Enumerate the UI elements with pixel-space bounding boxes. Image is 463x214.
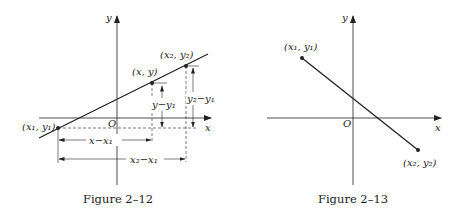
point-label-p: (x, y) (132, 66, 158, 77)
y-axis-label: y (341, 12, 348, 23)
origin-label: O (343, 118, 351, 129)
point-label-p1: (x₁, y₁) (22, 121, 56, 132)
figure-caption: Figure 2–13 (318, 192, 388, 206)
dim-label-x-minus-x1: x−x₁ (89, 135, 113, 146)
point-label-p2: (x₂, y₂) (403, 157, 437, 168)
point-label-p1: (x₁, y₁) (284, 41, 318, 52)
dim-label-y-minus-y1: y−y₁ (151, 99, 176, 110)
figure-2-13: x y O (x₁, y₁) (x₂, y₂) Figure 2–13 (267, 12, 441, 206)
dim-label-y2-minus-y1: y₂−y₁ (186, 93, 215, 104)
diagram-canvas: x y O y−y₁ y₂−y₁ x−x₁ x₂−x₁ (x₁, y₁) (0, 0, 463, 214)
x-axis-label: x (435, 122, 441, 133)
point-p1 (56, 126, 60, 130)
figure-caption: Figure 2–12 (83, 192, 153, 206)
point-p (150, 81, 154, 85)
point-label-p2: (x₂, y₂) (160, 49, 194, 60)
point-p1 (300, 56, 304, 60)
x-axis-label: x (205, 122, 211, 133)
line-through-points (39, 54, 208, 138)
origin-label: O (108, 118, 116, 129)
point-p2 (184, 64, 188, 68)
y-axis-label: y (105, 12, 112, 23)
figure-2-12: x y O y−y₁ y₂−y₁ x−x₁ x₂−x₁ (x₁, y₁) (22, 12, 216, 206)
segment-p1-p2 (302, 58, 418, 150)
point-p2 (416, 148, 420, 152)
dim-label-x2-minus-x1: x₂−x₁ (130, 154, 158, 165)
